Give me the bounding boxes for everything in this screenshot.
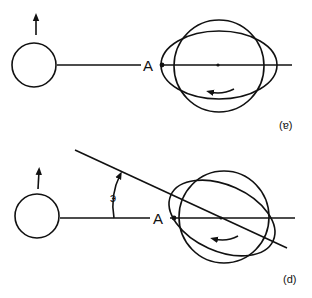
- diagram-canvas: A (ɐ) A э (d): [0, 0, 312, 298]
- panel-a-caption: (ɐ): [279, 119, 292, 131]
- earth-center-dot: [219, 216, 222, 219]
- panel-d: A э (d): [15, 150, 296, 285]
- velocity-arrow-icon: [38, 171, 39, 189]
- earth-circle: [179, 171, 269, 263]
- angle-label: э: [110, 191, 116, 205]
- earth-center-dot: [216, 63, 219, 66]
- rotation-arrow-icon: [210, 89, 234, 93]
- point-a-label: A: [153, 210, 163, 227]
- moon-circle: [12, 43, 56, 87]
- point-a-label: A: [143, 57, 153, 74]
- panel-a: A (ɐ): [12, 17, 292, 131]
- rotation-arrow-icon: [214, 236, 238, 240]
- moon-circle: [15, 194, 59, 238]
- panel-d-caption: (d): [283, 273, 296, 285]
